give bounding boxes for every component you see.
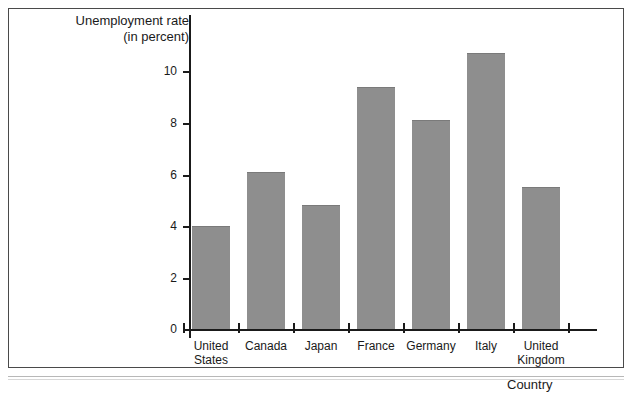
y-tick-2	[183, 278, 191, 280]
x-tick-3	[348, 323, 350, 333]
x-tick-0	[183, 323, 185, 333]
x-tick-1	[238, 323, 240, 333]
y-tick-label-8: 8	[137, 117, 177, 129]
x-tick-6	[513, 323, 515, 333]
bar-germany[interactable]	[412, 120, 450, 329]
x-category-label-line2: Kingdom	[509, 353, 573, 367]
x-tick-7	[568, 323, 570, 333]
y-tick-label-0: 0	[137, 323, 177, 335]
chart-screenshot: Unemployment rate (in percent) 0 2 4 6	[0, 0, 634, 397]
y-tick-4	[183, 226, 191, 228]
y-axis-title-line1: Unemployment rate	[29, 13, 189, 29]
x-tick-4	[403, 323, 405, 333]
bar-france[interactable]	[357, 87, 395, 329]
y-tick-6	[183, 175, 191, 177]
y-tick-10	[183, 71, 191, 73]
bar-united-kingdom[interactable]	[522, 187, 560, 329]
y-axis-title: Unemployment rate (in percent)	[29, 13, 189, 45]
y-tick-label-4: 4	[137, 220, 177, 232]
bottom-rule	[8, 376, 624, 380]
y-axis-title-line2: (in percent)	[29, 29, 189, 45]
y-tick-label-6: 6	[137, 169, 177, 181]
figure-frame: Unemployment rate (in percent) 0 2 4 6	[8, 8, 624, 368]
bar-canada[interactable]	[247, 172, 285, 329]
x-category-label-united-kingdom: United Kingdom	[509, 339, 573, 367]
bar-italy[interactable]	[467, 53, 505, 329]
y-tick-label-2: 2	[137, 272, 177, 284]
bar-united-states[interactable]	[192, 226, 230, 329]
x-category-label-line2: States	[179, 353, 243, 367]
bar-japan[interactable]	[302, 205, 340, 329]
y-tick-8	[183, 123, 191, 125]
x-category-label-line1: United	[509, 339, 573, 353]
plot-area: Unemployment rate (in percent) 0 2 4 6	[9, 9, 625, 369]
x-tick-2	[293, 323, 295, 333]
y-tick-label-10: 10	[137, 65, 177, 77]
x-tick-5	[458, 323, 460, 333]
x-axis-line	[183, 329, 597, 331]
